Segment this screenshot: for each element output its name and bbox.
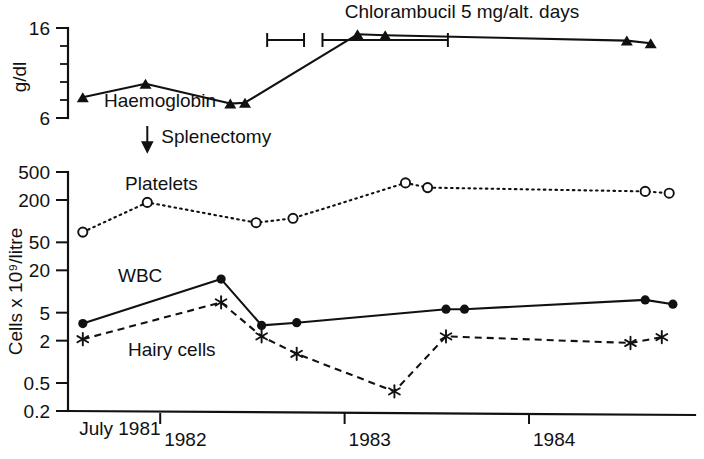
cell-counts-x-tick-label: 1982: [164, 429, 206, 450]
cell-counts-x-tick-label: 1983: [349, 429, 391, 450]
platelets-data-point: [143, 198, 152, 207]
cell-counts-x-tick-label: July 1981: [79, 418, 160, 439]
wbc-series-label: WBC: [118, 265, 162, 286]
wbc-data-point: [292, 318, 301, 327]
wbc-data-point: [78, 319, 87, 328]
wbc-data-point: [460, 305, 469, 314]
haemoglobin-series-label: Haemoglobin: [104, 90, 216, 111]
cell-counts-y-tick-label: 0.2: [24, 401, 50, 422]
cell-counts-y-tick-label: 0.5: [24, 373, 50, 394]
hairy-cells-data-point: [291, 348, 302, 360]
clinical-timecourse-figure: 166g/dlHaemoglobinChlorambucil 5 mg/alt.…: [0, 0, 704, 459]
wbc-line: [83, 279, 673, 325]
chlorambucil-label: Chlorambucil 5 mg/alt. days: [345, 1, 579, 22]
haemoglobin-y-tick-label: 16: [29, 18, 50, 39]
splenectomy-marker: Splenectomy: [142, 126, 271, 152]
hairy-cells-data-point: [389, 385, 400, 397]
cell-counts-x-tick-label: 1984: [533, 429, 576, 450]
platelets-data-point: [665, 189, 674, 198]
cell-counts-y-tick-label: 2: [39, 331, 50, 352]
haemoglobin-axis-title: g/dl: [9, 62, 30, 93]
platelets-series-label: Platelets: [125, 173, 198, 194]
cell-counts-panel: 0.20.5252050200500Cells x 10⁹/litreJuly …: [5, 162, 695, 450]
haemoglobin-panel: 166g/dlHaemoglobinChlorambucil 5 mg/alt.…: [9, 1, 657, 129]
cell-counts-y-tick-label: 500: [18, 162, 50, 183]
wbc-data-point: [257, 321, 266, 330]
cell-counts-y-tick-label: 5: [39, 303, 50, 324]
cell-counts-y-tick-label: 200: [18, 190, 50, 211]
cell-counts-y-tick-label: 50: [29, 232, 50, 253]
wbc-data-point: [441, 305, 450, 314]
platelets-data-point: [401, 178, 410, 187]
wbc-data-point: [217, 275, 226, 284]
platelets-data-point: [288, 214, 297, 223]
wbc-data-point: [641, 295, 650, 304]
splenectomy-arrow-icon: [142, 142, 152, 152]
cell-counts-y-tick-label: 20: [29, 260, 50, 281]
platelets-data-point: [641, 187, 650, 196]
chlorambucil-treatment-bar: [267, 33, 304, 47]
splenectomy-label: Splenectomy: [161, 126, 271, 147]
platelets-data-point: [78, 228, 87, 237]
figure-canvas: 166g/dlHaemoglobinChlorambucil 5 mg/alt.…: [0, 0, 704, 459]
hairy-cells-series-label: Hairy cells: [128, 339, 216, 360]
wbc-data-point: [668, 300, 677, 309]
cell-counts-x-axis: [68, 411, 695, 415]
haemoglobin-y-tick-label: 6: [39, 108, 50, 129]
platelets-data-point: [423, 183, 432, 192]
hairy-cells-data-point: [256, 330, 267, 342]
platelets-data-point: [252, 218, 261, 227]
cell-counts-axis-title: Cells x 10⁹/litre: [5, 228, 26, 355]
